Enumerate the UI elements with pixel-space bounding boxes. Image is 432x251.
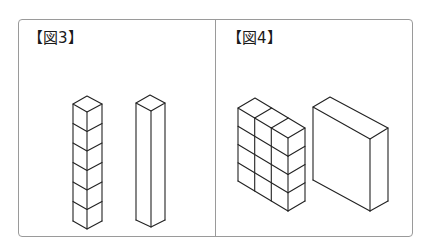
figures-canvas: [0, 0, 432, 251]
rectangular-prism: [136, 95, 165, 227]
stacked-unit-cubes: [73, 96, 102, 229]
rectangular-slab: [313, 97, 388, 211]
cube-wall: [238, 98, 305, 211]
